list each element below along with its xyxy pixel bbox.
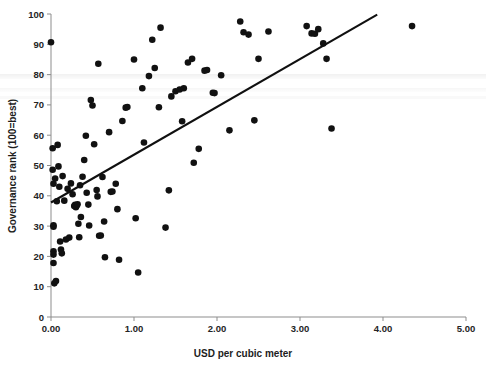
data-point	[303, 23, 310, 30]
plot-canvas: 0102030405060708090100 0.001.002.003.004…	[0, 0, 486, 374]
y-tick-label: 90	[33, 39, 44, 50]
data-point	[112, 180, 119, 187]
data-point	[168, 93, 175, 100]
data-point	[56, 183, 63, 190]
data-point	[135, 269, 142, 276]
data-point	[409, 23, 416, 30]
data-point	[204, 67, 211, 74]
data-point	[50, 223, 57, 230]
y-tick-label: 70	[33, 99, 44, 110]
data-point	[162, 224, 169, 231]
data-point	[85, 201, 92, 208]
data-point	[91, 141, 98, 148]
data-point	[86, 222, 93, 229]
data-point	[166, 187, 173, 194]
data-point	[59, 173, 66, 180]
data-point	[55, 163, 62, 170]
y-tick-label: 10	[33, 281, 44, 292]
data-point	[93, 187, 100, 194]
x-tick-label: 3.00	[291, 323, 310, 334]
data-point	[141, 139, 148, 146]
data-point	[315, 26, 322, 33]
data-point	[119, 118, 126, 125]
y-tick-label: 0	[39, 312, 44, 323]
data-point	[68, 180, 75, 187]
data-point	[146, 73, 153, 80]
data-point	[52, 175, 59, 182]
data-point	[83, 133, 90, 140]
data-point	[50, 260, 57, 267]
data-point	[49, 166, 56, 173]
x-tick-label: 1.00	[125, 323, 144, 334]
data-point	[195, 146, 202, 153]
data-point	[109, 188, 116, 195]
data-point	[95, 60, 102, 67]
data-point	[245, 31, 252, 38]
data-point	[79, 173, 86, 180]
y-tick-label: 20	[33, 251, 44, 262]
x-axis: 0.001.002.003.004.005.00	[42, 317, 476, 334]
data-point	[54, 142, 61, 149]
data-point	[237, 18, 244, 25]
x-axis-title: USD per cubic meter	[194, 348, 292, 359]
data-point	[139, 85, 146, 92]
data-point	[53, 278, 60, 285]
data-point	[151, 65, 158, 72]
data-point	[116, 256, 123, 263]
y-tick-label: 50	[33, 160, 44, 171]
data-point	[50, 251, 57, 258]
x-tick-label: 4.00	[374, 323, 393, 334]
data-point	[181, 85, 188, 92]
data-point	[57, 238, 64, 245]
data-point	[114, 206, 121, 213]
data-point	[124, 104, 131, 111]
x-tick-label: 5.00	[457, 323, 476, 334]
data-point	[218, 72, 225, 79]
data-points-layer	[48, 18, 416, 286]
scatter-plot-figure: 0102030405060708090100 0.001.002.003.004…	[0, 0, 486, 374]
data-point	[179, 118, 186, 125]
data-point	[102, 254, 109, 261]
data-point	[190, 159, 197, 166]
y-axis-title: Governance rank (100=best)	[7, 99, 18, 233]
x-tick-label: 2.00	[208, 323, 227, 334]
data-point	[78, 214, 85, 221]
data-point	[149, 36, 156, 43]
data-point	[323, 56, 330, 63]
data-point	[157, 24, 164, 31]
data-point	[255, 56, 262, 63]
data-point	[106, 129, 113, 136]
data-point	[48, 39, 55, 46]
data-point	[131, 56, 138, 63]
data-point	[189, 56, 196, 63]
data-point	[74, 201, 81, 208]
y-tick-label: 100	[28, 9, 44, 20]
data-point	[251, 117, 258, 124]
data-point	[265, 28, 272, 35]
trendline-layer	[51, 15, 377, 203]
data-point	[94, 193, 101, 200]
data-point	[58, 250, 65, 257]
data-point	[98, 232, 105, 239]
data-point	[328, 125, 335, 132]
x-tick-label: 0.00	[42, 323, 61, 334]
data-point	[89, 102, 96, 109]
data-point	[101, 218, 108, 225]
data-point	[61, 197, 68, 204]
y-tick-label: 60	[33, 130, 44, 141]
trendline	[51, 15, 377, 203]
data-point	[81, 157, 88, 164]
data-point	[66, 234, 73, 241]
y-axis: 0102030405060708090100	[28, 9, 51, 323]
data-point	[132, 215, 139, 222]
y-tick-label: 80	[33, 69, 44, 80]
data-point	[226, 127, 233, 134]
y-tick-label: 30	[33, 221, 44, 232]
data-point	[83, 189, 90, 196]
y-tick-label: 40	[33, 190, 44, 201]
data-point	[211, 90, 218, 97]
data-point	[76, 234, 83, 241]
data-point	[156, 104, 163, 111]
data-point	[75, 220, 82, 227]
